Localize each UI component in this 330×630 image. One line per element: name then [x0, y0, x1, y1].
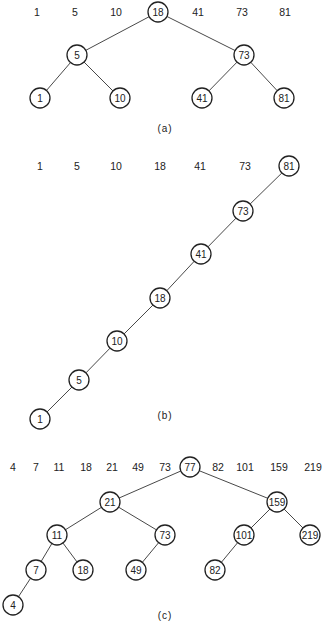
node-key: 1	[37, 414, 43, 425]
node-key: 81	[278, 93, 290, 104]
key-label: 159	[270, 461, 288, 473]
tree-node: 73	[155, 525, 175, 545]
tree-edge	[119, 507, 157, 530]
tree-node: 18	[148, 2, 168, 22]
tree-edge	[65, 507, 101, 529]
node-key: 41	[196, 93, 208, 104]
tree-node: 49	[126, 560, 146, 580]
tree-edge	[47, 63, 71, 91]
key-label: 10	[110, 6, 122, 18]
tree-edge	[86, 17, 149, 51]
tree-edge	[86, 348, 110, 373]
tree-edge	[167, 16, 235, 50]
tree-node: 73	[234, 45, 254, 65]
tree-edge	[84, 62, 113, 91]
key-label: 1	[37, 160, 43, 172]
node-key: 81	[283, 161, 295, 172]
tree-edge	[221, 543, 237, 563]
tree-edge	[209, 62, 237, 91]
tree-node: 82	[205, 560, 225, 580]
node-key: 101	[236, 530, 253, 541]
node-key: 5	[74, 50, 80, 61]
key-label: 41	[194, 160, 206, 172]
node-key: 49	[130, 565, 142, 576]
tree-node: 219	[300, 525, 320, 545]
node-key: 18	[77, 565, 89, 576]
key-label: 10	[110, 160, 122, 172]
node-key: 159	[269, 497, 286, 508]
node-key: 73	[159, 530, 171, 541]
tree-node: 81	[274, 88, 294, 108]
tree-node: 73	[233, 201, 253, 221]
tree-node: 5	[69, 370, 89, 390]
node-key: 10	[114, 93, 126, 104]
key-label: 18	[80, 461, 92, 473]
key-label: 101	[236, 461, 254, 473]
tree-edge	[251, 509, 270, 528]
figure-a-balanced-tree: 1510417381185731104181(a)	[30, 2, 294, 134]
key-label: 7	[33, 461, 39, 473]
tree-edge	[251, 62, 277, 90]
tree-node: 18	[73, 560, 93, 580]
key-label: 18	[154, 160, 166, 172]
tree-edge	[47, 387, 72, 412]
tree-edge	[119, 471, 181, 498]
tree-node: 10	[110, 88, 130, 108]
key-label: 5	[72, 6, 78, 18]
tree-edge	[208, 218, 236, 247]
figure-b-degenerate-tree: 1510184173817341181051(b)	[30, 156, 299, 429]
tree-node: 41	[192, 88, 212, 108]
key-label: 73	[236, 6, 248, 18]
tree-node: 1	[30, 88, 50, 108]
tree-edge	[250, 173, 282, 204]
tree-node: 11	[47, 525, 67, 545]
figure-c-tree: 4711182149738210115921977211591173101219…	[3, 457, 322, 621]
node-key: 73	[237, 206, 249, 217]
node-key: 41	[195, 249, 207, 260]
node-key: 73	[238, 50, 250, 61]
node-key: 1	[37, 93, 43, 104]
key-label: 1	[34, 6, 40, 18]
key-label: 219	[304, 461, 322, 473]
tree-edge	[284, 509, 303, 528]
node-key: 82	[209, 565, 221, 576]
node-key: 5	[76, 375, 82, 386]
tree-edge	[167, 261, 194, 290]
figure-caption: (c)	[158, 610, 173, 621]
node-key: 10	[111, 336, 123, 347]
binary-search-tree-diagram: 1510417381185731104181(a) 15101841738173…	[0, 0, 330, 630]
tree-node: 21	[100, 492, 120, 512]
node-key: 21	[104, 497, 116, 508]
key-label: 73	[239, 160, 251, 172]
figure-caption: (b)	[157, 410, 172, 421]
tree-node: 7	[26, 560, 46, 580]
key-label: 4	[10, 461, 16, 473]
tree-edge	[199, 471, 267, 499]
key-label: 49	[132, 461, 144, 473]
key-label: 81	[279, 6, 291, 18]
node-key: 11	[52, 530, 63, 541]
node-key: 18	[152, 7, 164, 18]
node-key: 18	[154, 293, 166, 304]
tree-node: 18	[150, 288, 170, 308]
key-label: 11	[54, 461, 65, 473]
tree-edge	[124, 305, 153, 334]
tree-node: 10	[107, 331, 127, 351]
node-key: 7	[33, 565, 39, 576]
tree-node: 101	[234, 525, 254, 545]
key-label: 73	[159, 461, 171, 473]
tree-node: 41	[191, 244, 211, 264]
node-key: 219	[302, 530, 319, 541]
key-label: 21	[106, 461, 118, 473]
tree-node: 4	[3, 595, 23, 615]
node-key: 77	[184, 462, 196, 473]
key-label: 41	[192, 6, 204, 18]
tree-node: 159	[267, 492, 287, 512]
figure-caption: (a)	[157, 123, 172, 134]
tree-node: 5	[67, 45, 87, 65]
tree-edge	[142, 543, 158, 563]
tree-edge	[18, 578, 30, 596]
tree-node: 77	[180, 457, 200, 477]
node-key: 4	[10, 600, 16, 611]
tree-edge	[63, 543, 77, 562]
